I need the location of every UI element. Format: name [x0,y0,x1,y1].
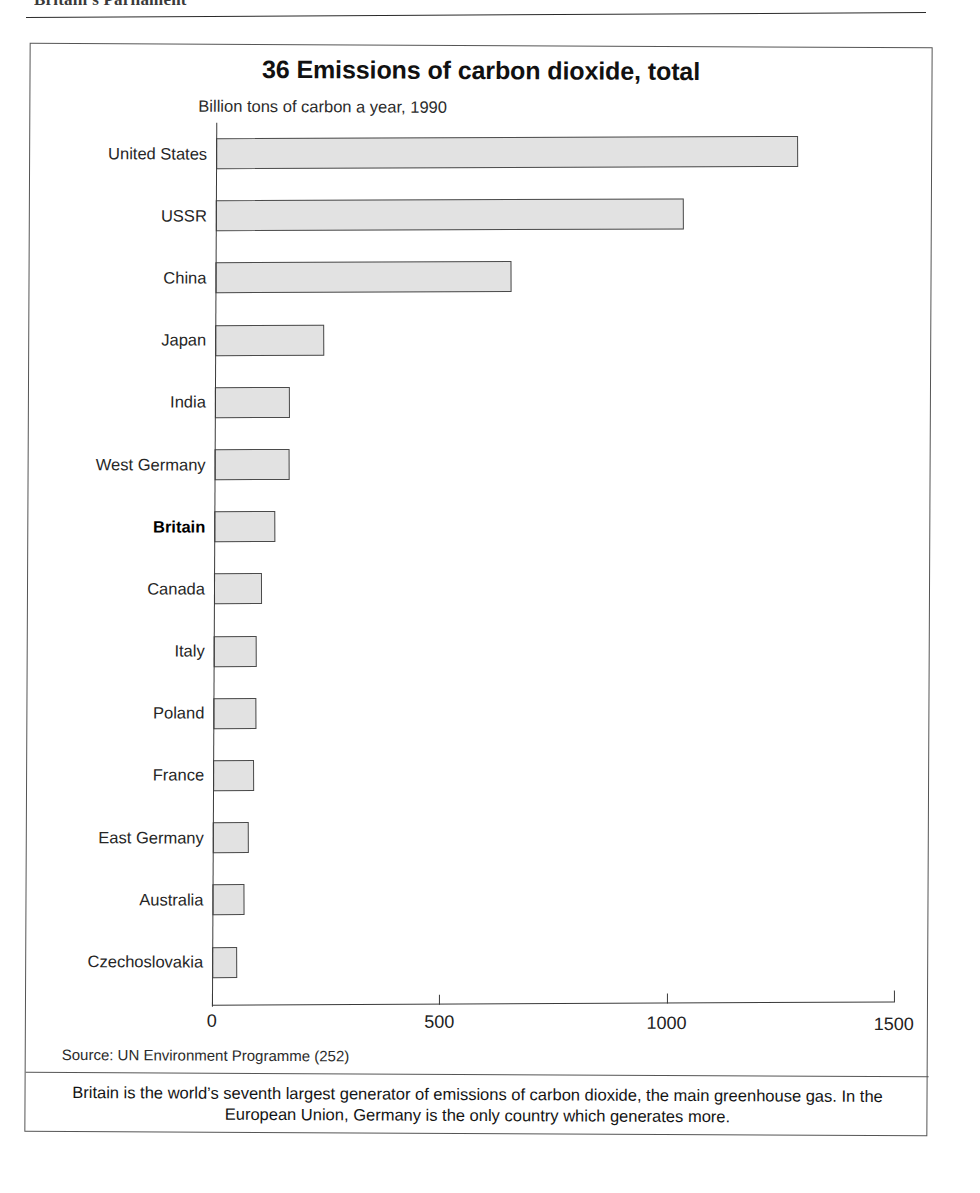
plot-area: United StatesUSSRChinaJapanIndiaWest Ger… [26,122,933,1006]
category-label: West Germany [29,454,215,474]
bar-row: Italy [28,619,931,686]
category-label: Poland [27,703,213,723]
category-label: Britain [28,517,214,537]
bar-row: Australia [26,868,929,935]
source-note: Source: UN Environment Programme (252) [62,1046,350,1064]
bar-row: Britain [28,495,931,562]
bar-row: Japan [29,308,932,375]
bar-track [213,807,930,873]
bar [216,199,684,232]
bar-row: Poland [27,681,930,748]
figure-frame: 36 Emissions of carbon dioxide, total Bi… [24,43,932,1136]
bar [214,636,257,667]
category-label: China [29,268,215,288]
bar [213,822,249,853]
category-label: East Germany [27,827,213,847]
bar [215,449,290,480]
bar [212,947,237,978]
category-label: Czechoslovakia [26,952,212,972]
category-label: Italy [28,641,214,661]
x-axis-tick [667,994,668,1004]
x-axis-tick [212,994,213,1006]
bar-row: USSR [30,184,933,251]
bar-row: West Germany [28,433,931,500]
bar-row: East Germany [27,806,930,873]
x-axis-tick-label: 1000 [646,1013,686,1034]
figure-caption: Britain is the world’s seventh largest g… [49,1082,905,1128]
bar-track [215,371,932,437]
category-label: USSR [30,206,216,226]
bar [212,884,244,915]
bar-track [213,745,930,811]
chart-subtitle: Billion tons of carbon a year, 1990 [198,97,447,117]
bar [215,387,290,418]
bar-track [214,434,931,500]
bar-track [213,682,930,748]
bar [215,324,324,355]
category-label: Canada [28,579,214,599]
bar-row: United States [30,122,933,189]
bar-row: France [27,744,930,811]
bar-row: Czechoslovakia [26,930,929,997]
bar-track [215,309,932,375]
category-label: France [27,765,213,785]
x-axis-tick-label: 0 [207,1011,217,1032]
bar-row: China [29,246,932,313]
bar-track [214,620,931,686]
bar-row: India [29,371,932,438]
bar-track [212,931,929,997]
x-axis-tick [439,995,440,1005]
bar [216,136,798,169]
category-label: India [29,392,215,412]
bar [213,760,254,791]
page-running-head-text: Britain's Parliament [34,0,914,10]
bar-track [214,558,931,624]
bar [213,698,256,729]
chart-title: 36 Emissions of carbon dioxide, total [30,54,931,87]
bar [214,511,275,542]
bar-row: Canada [28,557,931,624]
category-label: United States [30,143,216,163]
category-label: Australia [26,890,212,910]
x-axis-tick-label: 500 [424,1012,454,1033]
bar [214,573,262,604]
bar-track [216,185,933,251]
bar-track [212,869,929,935]
bar-track [215,247,932,313]
footer-divider [26,1072,929,1077]
figure-inner: 36 Emissions of carbon dioxide, total Bi… [25,44,931,1135]
x-axis-tick-label: 1500 [874,1014,914,1035]
bar [215,262,511,294]
x-axis-tick [894,990,895,1002]
category-label: Japan [29,330,215,350]
bar-track [214,496,931,562]
bar-track [216,123,933,189]
